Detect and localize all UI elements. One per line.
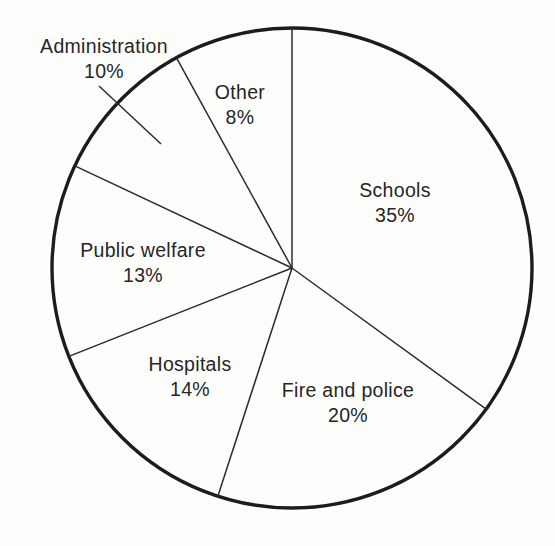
slice-label-hospitals: Hospitals 14%	[149, 352, 232, 402]
slice-label-fire-and-police: Fire and police 20%	[282, 378, 414, 428]
slice-label-public-welfare-name: Public welfare	[80, 238, 206, 263]
slice-label-hospitals-name: Hospitals	[149, 352, 232, 377]
slice-label-administration-value: 10%	[40, 59, 168, 84]
slice-label-public-welfare: Public welfare 13%	[80, 238, 206, 288]
slice-label-schools-name: Schools	[359, 178, 430, 203]
slice-label-schools-value: 35%	[359, 203, 430, 228]
slice-label-other: Other 8%	[215, 80, 265, 130]
slice-label-fire-and-police-value: 20%	[282, 403, 414, 428]
slice-label-fire-and-police-name: Fire and police	[282, 378, 414, 403]
slice-label-other-name: Other	[215, 80, 265, 105]
slice-label-other-value: 8%	[215, 105, 265, 130]
slice-label-hospitals-value: 14%	[149, 377, 232, 402]
slice-label-schools: Schools 35%	[359, 178, 430, 228]
slice-label-administration-name: Administration	[40, 34, 168, 59]
slice-label-public-welfare-value: 13%	[80, 263, 206, 288]
pie-chart: Schools 35% Fire and police 20% Hospital…	[0, 0, 555, 546]
slice-label-administration: Administration 10%	[40, 34, 168, 84]
